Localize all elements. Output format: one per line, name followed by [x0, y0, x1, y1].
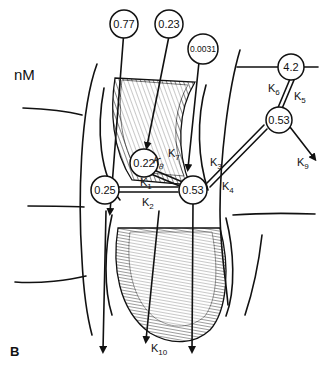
svg-text:0.23: 0.23: [158, 18, 179, 30]
svg-text:4.2: 4.2: [283, 61, 298, 73]
svg-text:0.53: 0.53: [268, 114, 289, 126]
node-0.53-central: 0.53: [179, 176, 207, 204]
panel-label: B: [10, 344, 19, 359]
node-0.25: 0.25: [91, 176, 119, 204]
label-K4: K4: [222, 180, 234, 195]
node-0.53-right: 0.53: [266, 107, 292, 133]
compartment-diagram: 0.77 0.23 0.0031 0.22 0.25 0.53 0.53 4.2…: [0, 0, 333, 369]
label-K6: K6: [268, 82, 280, 97]
node-0.23: 0.23: [155, 10, 183, 38]
node-0.77: 0.77: [110, 10, 138, 38]
unit-label: nM: [14, 66, 35, 83]
label-K2: K2: [142, 196, 154, 211]
node-0.0031: 0.0031: [188, 34, 218, 64]
label-K9: K9: [297, 156, 309, 171]
lower-tube: [106, 215, 233, 342]
svg-text:0.77: 0.77: [113, 18, 134, 30]
label-K3: K3: [210, 156, 222, 171]
label-K10: K10: [151, 342, 168, 357]
node-4.2: 4.2: [278, 54, 304, 80]
svg-text:0.53: 0.53: [182, 184, 203, 196]
svg-text:0.25: 0.25: [94, 184, 115, 196]
svg-text:0.0031: 0.0031: [190, 44, 216, 54]
label-K5: K5: [294, 90, 306, 105]
